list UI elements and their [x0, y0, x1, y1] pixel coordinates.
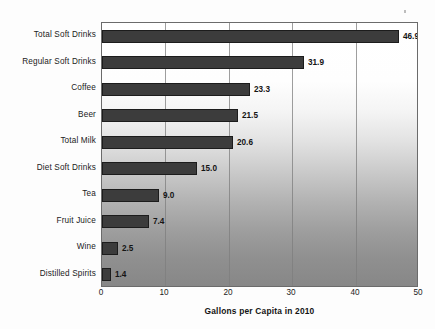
x-tick-label: 10 — [159, 288, 168, 297]
x-axis-title: Gallons per Capita in 2010 — [101, 306, 418, 316]
category-label: Fruit Juice — [0, 216, 96, 226]
category-label: Wine — [0, 242, 96, 252]
bar-value-label: 1.4 — [115, 269, 126, 280]
bar-chart: Total Soft DrinksRegular Soft DrinksCoff… — [0, 0, 435, 329]
bar-value-label: 46.9 — [403, 31, 418, 42]
bar-row: 9.0 — [102, 189, 418, 202]
x-tick-label: 20 — [223, 288, 232, 297]
bar-row: 21.5 — [102, 109, 418, 122]
category-label: Diet Soft Drinks — [0, 163, 96, 173]
bar-value-label: 23.3 — [254, 84, 270, 95]
category-label: Tea — [0, 189, 96, 199]
bar-value-label: 31.9 — [308, 57, 324, 68]
x-axis: 01020304050 — [101, 288, 418, 304]
bar-row: 1.4 — [102, 268, 418, 281]
bar-row: 23.3 — [102, 83, 418, 96]
category-label: Total Milk — [0, 136, 96, 146]
bar-value-label: 9.0 — [163, 190, 174, 201]
bar — [102, 189, 159, 202]
bar-value-label: 2.5 — [122, 243, 133, 254]
bar-row: 2.5 — [102, 242, 418, 255]
category-axis: Total Soft DrinksRegular Soft DrinksCoff… — [0, 22, 96, 287]
x-tick-label: 0 — [99, 288, 104, 297]
bar — [102, 56, 304, 69]
bar — [102, 268, 111, 281]
bar-row: 31.9 — [102, 56, 418, 69]
bar-value-label: 20.6 — [237, 137, 253, 148]
bar-row: 46.9 — [102, 30, 418, 43]
bar — [102, 162, 197, 175]
bar-row: 20.6 — [102, 136, 418, 149]
bar — [102, 136, 233, 149]
bar — [102, 215, 149, 228]
image-artifact-speck — [404, 10, 406, 13]
bar — [102, 109, 238, 122]
bar-row: 7.4 — [102, 215, 418, 228]
category-label: Total Soft Drinks — [0, 30, 96, 40]
bar-value-label: 7.4 — [153, 216, 164, 227]
x-tick-label: 30 — [286, 288, 295, 297]
category-label: Beer — [0, 110, 96, 120]
bar-value-label: 21.5 — [242, 110, 258, 121]
category-label: Coffee — [0, 83, 96, 93]
category-label: Regular Soft Drinks — [0, 57, 96, 67]
bar — [102, 83, 250, 96]
bar-value-label: 15.0 — [201, 163, 217, 174]
bar — [102, 30, 399, 43]
bar — [102, 242, 118, 255]
category-label: Distilled Spirits — [0, 269, 96, 279]
x-tick-label: 50 — [413, 288, 422, 297]
bar-row: 15.0 — [102, 162, 418, 175]
x-tick-label: 40 — [350, 288, 359, 297]
plot-area: 46.931.923.321.520.615.09.07.42.51.4 — [101, 22, 418, 287]
